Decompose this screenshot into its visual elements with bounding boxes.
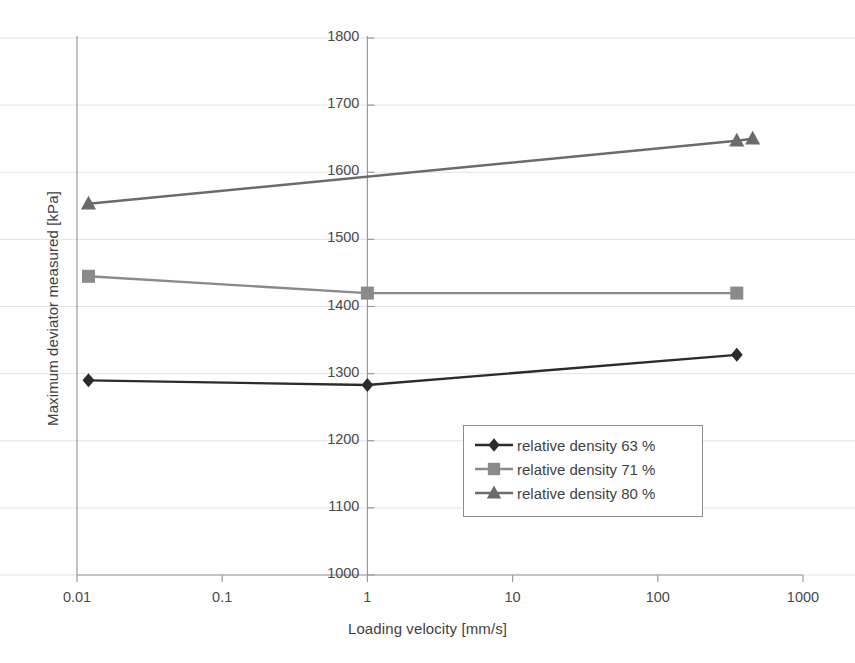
- series-line: [88, 355, 736, 385]
- y-tick-label: 1400: [289, 297, 359, 313]
- y-tick-label: 1000: [289, 565, 359, 581]
- x-axis-title: Loading velocity [mm/s]: [0, 620, 855, 637]
- gridlines: [0, 38, 855, 575]
- y-tick-label: 1800: [289, 28, 359, 44]
- data-point-marker: [731, 348, 743, 362]
- chart-figure: 1000110012001300140015001600170018000.01…: [0, 0, 855, 663]
- legend-label: relative density 63 %: [517, 437, 655, 454]
- legend-marker-triangle-icon: [474, 483, 514, 503]
- data-point-marker: [488, 438, 499, 451]
- x-tick-label: 100: [618, 589, 698, 605]
- chart-legend: relative density 63 %relative density 71…: [463, 425, 703, 517]
- series-line: [88, 139, 752, 204]
- x-tick-label: 1: [327, 589, 407, 605]
- data-point-marker: [730, 287, 743, 300]
- y-axis-title: Maximum deviator measured [kPa]: [44, 109, 61, 509]
- legend-label: relative density 71 %: [517, 461, 655, 478]
- y-tick-label: 1100: [289, 498, 359, 514]
- data-point-marker: [361, 287, 374, 300]
- data-point-marker: [488, 463, 500, 475]
- data-point-marker: [83, 373, 95, 387]
- chart-plot-area: [0, 0, 855, 663]
- legend-label: relative density 80 %: [517, 485, 655, 502]
- series-square: [82, 270, 743, 300]
- y-tick-label: 1600: [289, 162, 359, 178]
- y-tick-label: 1500: [289, 229, 359, 245]
- series-diamond: [83, 348, 743, 392]
- data-point-marker: [745, 131, 760, 145]
- data-series-layer: [81, 131, 760, 392]
- data-point-marker: [361, 378, 373, 392]
- x-tick-label: 1000: [763, 589, 843, 605]
- series-line: [88, 276, 736, 293]
- data-point-marker: [82, 270, 95, 283]
- legend-item: relative density 71 %: [474, 457, 690, 481]
- y-tick-label: 1200: [289, 431, 359, 447]
- y-tick-label: 1300: [289, 364, 359, 380]
- legend-item: relative density 80 %: [474, 481, 690, 505]
- x-tick-label: 0.1: [182, 589, 262, 605]
- x-tick-label: 0.01: [37, 589, 117, 605]
- y-tick-label: 1700: [289, 95, 359, 111]
- legend-item: relative density 63 %: [474, 433, 690, 457]
- series-triangle: [81, 131, 760, 210]
- legend-marker-square-icon: [474, 459, 514, 479]
- x-tick-label: 10: [473, 589, 553, 605]
- legend-marker-diamond-icon: [474, 435, 514, 455]
